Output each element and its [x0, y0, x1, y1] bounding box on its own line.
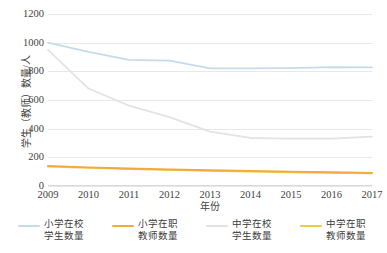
series-line — [48, 43, 372, 69]
x-tick-label: 2014 — [231, 189, 271, 201]
legend-label: 小学在职 教师数量 — [138, 219, 178, 242]
y-axis-tick-labels: 020040060080010001200 — [4, 14, 44, 186]
plot-area — [48, 14, 372, 186]
legend-item[interactable]: 中学在校 学生数量 — [206, 219, 272, 242]
x-tick-label: 2009 — [28, 189, 68, 201]
legend-item[interactable]: 小学在校 学生数量 — [18, 219, 84, 242]
legend-color-swatch — [300, 225, 322, 227]
y-tick-label: 600 — [4, 95, 44, 105]
x-tick-label: 2016 — [312, 189, 352, 201]
x-tick-label: 2015 — [271, 189, 311, 201]
y-tick-label: 200 — [4, 152, 44, 162]
y-tick-label: 1200 — [4, 9, 44, 19]
series-container — [48, 14, 372, 186]
legend-label: 小学在校 学生数量 — [44, 219, 84, 242]
series-line — [48, 50, 372, 139]
y-tick-label: 800 — [4, 66, 44, 76]
x-tick-label: 2011 — [109, 189, 149, 201]
x-axis-title: 年份 — [48, 201, 372, 213]
legend-label: 中学在校 学生数量 — [232, 219, 272, 242]
y-tick-label: 400 — [4, 124, 44, 134]
y-tick-label: 1000 — [4, 38, 44, 48]
chart-legend: 小学在校 学生数量小学在职 教师数量中学在校 学生数量中学在职 教师数量 — [18, 219, 366, 251]
legend-item[interactable]: 小学在职 教师数量 — [112, 219, 178, 242]
x-tick-label: 2013 — [190, 189, 230, 201]
legend-color-swatch — [112, 225, 134, 227]
legend-item[interactable]: 中学在职 教师数量 — [300, 219, 366, 242]
series-line — [48, 166, 372, 173]
x-tick-label: 2010 — [69, 189, 109, 201]
x-tick-label: 2017 — [352, 189, 387, 201]
gridline — [48, 186, 372, 187]
x-tick-label: 2012 — [150, 189, 190, 201]
legend-label: 中学在职 教师数量 — [326, 219, 366, 242]
legend-color-swatch — [206, 225, 228, 227]
legend-color-swatch — [18, 225, 40, 227]
